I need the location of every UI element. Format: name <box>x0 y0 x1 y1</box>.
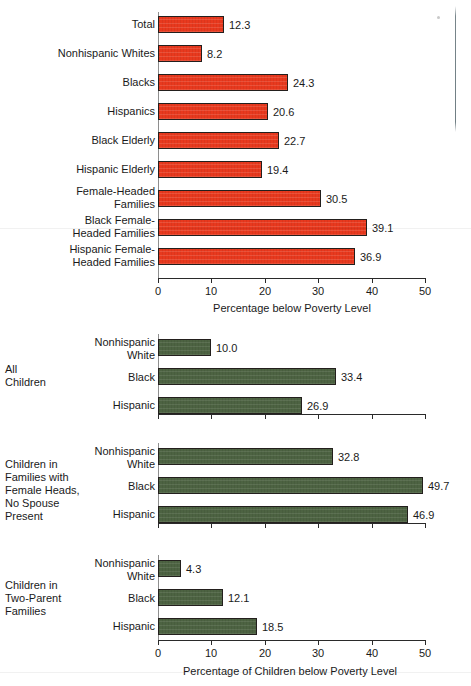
bar-value-all-children-black: 33.4 <box>341 371 362 382</box>
group1-x-axis-line <box>158 414 426 415</box>
x-tick-label-10: 10 <box>199 286 223 297</box>
bar-blacks[interactable] <box>158 74 288 91</box>
bar-all-children-nonhispanic-white[interactable] <box>158 339 211 356</box>
group3-x-tick-50 <box>425 640 426 645</box>
group3-category-label-hispanic: Hispanic <box>45 620 155 633</box>
bar-two-parent-hispanic[interactable] <box>158 618 257 635</box>
bar-row: 8.2 <box>158 45 458 62</box>
bar-value-female-heads-black: 49.7 <box>428 480 449 491</box>
category-label-hispanic-female-headed-families: Hispanic Female- Headed Families <box>10 243 155 268</box>
bar-hispanic-elderly[interactable] <box>158 161 262 178</box>
scan-gutter-line <box>455 6 456 132</box>
x-tick-50 <box>425 278 426 283</box>
bar-value-total: 12.3 <box>229 19 250 30</box>
group3-x-tick-20 <box>265 640 266 645</box>
bar-hispanic-female-headed-families[interactable] <box>158 248 355 265</box>
category-label-black-female-headed-families: Black Female- Headed Families <box>15 214 155 239</box>
bottom-x-tick-label-50: 50 <box>413 648 437 659</box>
group2-x-axis-line <box>158 523 426 524</box>
bar-value-nonhispanic-whites: 8.2 <box>207 48 222 59</box>
bar-value-hispanics: 20.6 <box>273 106 294 117</box>
x-tick-label-40: 40 <box>360 286 384 297</box>
group3-x-tick-0 <box>158 640 159 645</box>
bar-hispanics[interactable] <box>158 103 268 120</box>
group2-x-tick-30 <box>318 523 319 528</box>
bar-value-all-children-nonhispanic-white: 10.0 <box>216 342 237 353</box>
group1-x-tick-30 <box>318 414 319 419</box>
bottom-x-tick-label-40: 40 <box>360 648 384 659</box>
category-label-hispanics: Hispanics <box>35 105 155 118</box>
bar-value-two-parent-hispanic: 18.5 <box>262 621 283 632</box>
bar-black-elderly[interactable] <box>158 132 279 149</box>
category-label-hispanic-elderly: Hispanic Elderly <box>35 163 155 176</box>
bottom-x-tick-label-20: 20 <box>253 648 277 659</box>
category-label-total: Total <box>35 18 155 31</box>
group1-x-tick-20 <box>265 414 266 419</box>
bar-all-children-hispanic[interactable] <box>158 397 302 414</box>
bottom-x-tick-label-10: 10 <box>199 648 223 659</box>
bar-female-headed-families[interactable] <box>158 190 321 207</box>
group2-category-label-nonhispanic-white: Nonhispanic White <box>45 445 155 470</box>
bar-female-heads-black[interactable] <box>158 477 423 494</box>
x-tick-label-20: 20 <box>253 286 277 297</box>
group1-x-tick-40 <box>372 414 373 419</box>
category-label-female-headed-families: Female-Headed Families <box>25 185 155 210</box>
bar-all-children-black[interactable] <box>158 368 336 385</box>
bar-value-female-heads-nonhispanic-white: 32.8 <box>338 451 359 462</box>
bottom-x-tick-label-30: 30 <box>306 648 330 659</box>
bar-row: 30.5 <box>158 190 458 207</box>
bar-female-heads-hispanic[interactable] <box>158 506 408 523</box>
x-tick-30 <box>318 278 319 283</box>
x-tick-label-30: 30 <box>306 286 330 297</box>
bar-row: 12.3 <box>158 16 458 33</box>
group1-x-tick-50 <box>425 414 426 419</box>
bar-female-heads-nonhispanic-white[interactable] <box>158 448 333 465</box>
bar-row: 46.9 <box>158 506 458 523</box>
bar-value-two-parent-black: 12.1 <box>228 592 249 603</box>
bar-value-blacks: 24.3 <box>293 77 314 88</box>
x-tick-label-50: 50 <box>413 286 437 297</box>
group2-category-label-hispanic: Hispanic <box>45 508 155 521</box>
bar-row: 33.4 <box>158 368 458 385</box>
bar-two-parent-nonhispanic-white[interactable] <box>158 560 181 577</box>
category-label-blacks: Blacks <box>35 76 155 89</box>
group1-category-label-black: Black <box>45 371 155 384</box>
scan-speck <box>437 16 440 19</box>
group3-x-axis-line <box>158 640 426 641</box>
bar-row: 49.7 <box>158 477 458 494</box>
group2-x-tick-20 <box>265 523 266 528</box>
bar-row: 10.0 <box>158 339 458 356</box>
group3-x-tick-40 <box>372 640 373 645</box>
group2-x-tick-50 <box>425 523 426 528</box>
x-tick-0 <box>158 278 159 283</box>
bar-value-all-children-hispanic: 26.9 <box>307 400 328 411</box>
group1-category-label-hispanic: Hispanic <box>45 399 155 412</box>
category-label-nonhispanic-whites: Nonhispanic Whites <box>25 47 155 60</box>
poverty-by-group-chart: Total Nonhispanic Whites Blacks Hispanic… <box>0 0 471 318</box>
bar-row: 32.8 <box>158 448 458 465</box>
bar-row: 24.3 <box>158 74 458 91</box>
bar-row: 4.3 <box>158 560 458 577</box>
scan-seam-upper <box>0 228 471 229</box>
children-poverty-chart: All Children Nonhispanic White Black His… <box>0 330 471 686</box>
bar-row: 19.4 <box>158 161 458 178</box>
bar-row: 12.1 <box>158 589 458 606</box>
group1-x-tick-10 <box>211 414 212 419</box>
group3-category-label-black: Black <box>45 592 155 605</box>
group3-category-label-nonhispanic-white: Nonhispanic White <box>45 557 155 582</box>
bar-row: 18.5 <box>158 618 458 635</box>
group2-x-tick-10 <box>211 523 212 528</box>
group1-x-tick-0 <box>158 414 159 419</box>
bottom-chart-x-axis-title: Percentage of Children below Poverty Lev… <box>140 665 440 677</box>
group3-x-tick-30 <box>318 640 319 645</box>
bar-total[interactable] <box>158 16 224 33</box>
bar-value-hispanic-female-headed-families: 36.9 <box>360 251 381 262</box>
bar-value-two-parent-nonhispanic-white: 4.3 <box>186 563 201 574</box>
bar-two-parent-black[interactable] <box>158 589 223 606</box>
bar-nonhispanic-whites[interactable] <box>158 45 202 62</box>
bottom-x-tick-label-0: 0 <box>146 648 170 659</box>
bar-value-female-heads-hispanic: 46.9 <box>413 509 434 520</box>
top-chart-x-axis-line <box>158 278 426 279</box>
bar-value-hispanic-elderly: 19.4 <box>267 164 288 175</box>
x-tick-10 <box>211 278 212 283</box>
